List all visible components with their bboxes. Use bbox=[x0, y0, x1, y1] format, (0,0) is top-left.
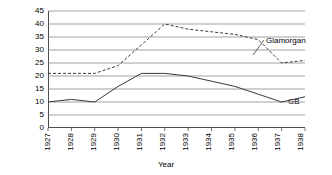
series-line-glamorgan bbox=[48, 24, 305, 73]
leader-line-glamorgan bbox=[253, 40, 264, 55]
series-line-gb bbox=[48, 73, 305, 102]
line-chart: 45 40 35 30 25 20 15 10 5 0 1927 1928 19… bbox=[0, 0, 332, 175]
x-axis-ticks bbox=[48, 128, 305, 131]
chart-svg-layer bbox=[0, 0, 332, 175]
